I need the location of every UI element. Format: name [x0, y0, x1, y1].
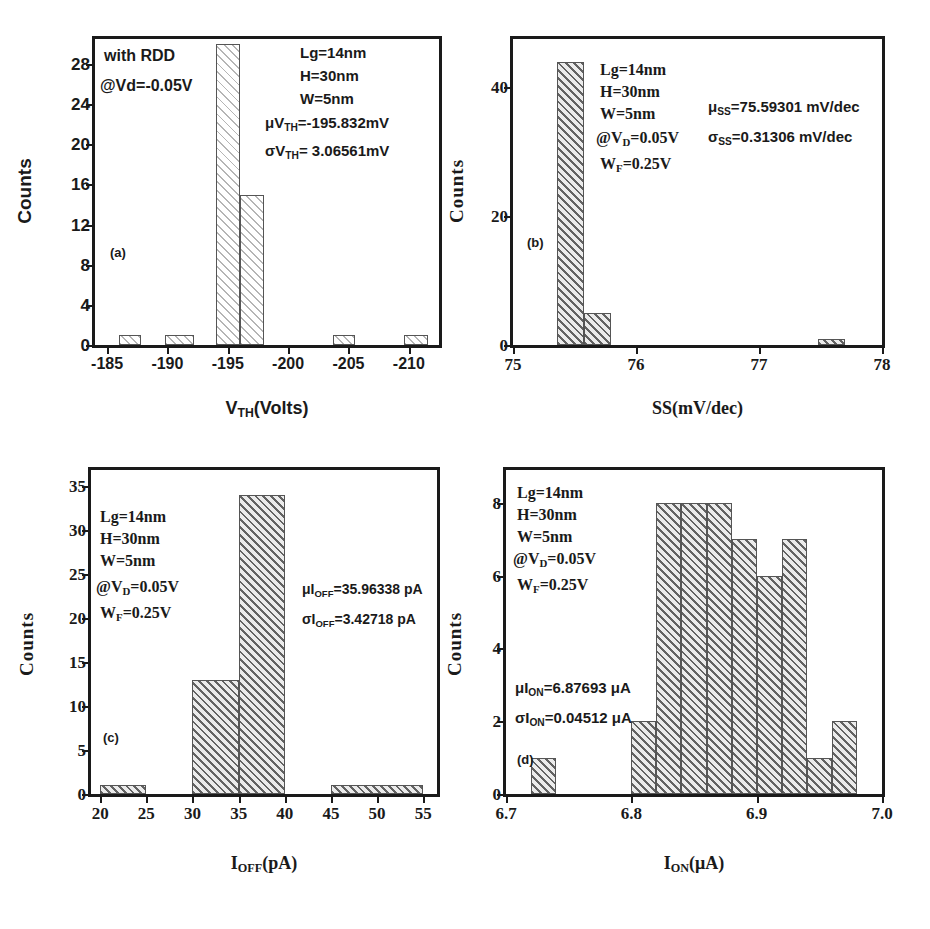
- panel-b-annotation-wf: WF=0.25V: [600, 152, 671, 177]
- panel-d-x-axis-title: ION(μA): [503, 853, 885, 876]
- y-axis-tick-label: 30: [69, 521, 86, 538]
- y-axis-tick-label: 16: [71, 176, 90, 193]
- mu-ion-sub: ON: [528, 687, 543, 698]
- y-axis-tick-label: 2: [493, 713, 502, 730]
- y-axis-tick-label: 4: [493, 640, 502, 657]
- histogram-bar: [832, 721, 857, 794]
- x-axis-tick-label: 35: [230, 805, 247, 822]
- x-axis-tick: [636, 345, 638, 354]
- panel-a-x-axis-title: VTH(Volts): [92, 398, 442, 420]
- panel-b-plot-area: [513, 39, 882, 345]
- x-axis-tick: [285, 794, 287, 803]
- histogram-bar: [100, 785, 146, 794]
- x-axis-tick-label: 20: [92, 805, 109, 822]
- x-axis-tick-label: 55: [415, 805, 432, 822]
- sigma-ion-sub: ON: [529, 717, 544, 728]
- y-axis-tick-label: 4: [81, 296, 90, 313]
- mu-ss-post: =75.59301 mV/dec: [731, 98, 860, 115]
- panel-c-annotation-vd: @VD=0.05V: [96, 575, 179, 600]
- panel-a-y-axis-title: Counts: [14, 158, 36, 223]
- panel-d-x-axis-title-post: (μA): [689, 853, 724, 873]
- sigma-vth-post: = 3.06561mV: [299, 142, 390, 159]
- histogram-bar: [333, 335, 355, 345]
- vd-pre: @V: [96, 578, 122, 595]
- histogram-bar: [707, 503, 732, 794]
- panel-c-annotation-mu-ioff: μIOFF=35.96338 pA: [302, 579, 423, 600]
- histogram-bar: [119, 335, 141, 345]
- y-axis-tick-label: 8: [493, 494, 502, 511]
- wf-sub: F: [533, 583, 540, 595]
- x-axis-tick-label: 45: [322, 805, 339, 822]
- panel-d-y-axis-title: Counts: [444, 612, 466, 676]
- sigma-ioff-pre: σI: [302, 611, 315, 627]
- sigma-vth-pre: σV: [265, 142, 285, 159]
- x-axis-tick: [631, 794, 633, 803]
- x-axis-tick-label: -190: [151, 356, 183, 372]
- panel-c-annotation-h: H=30nm: [100, 527, 160, 550]
- wf-sub: F: [616, 162, 623, 174]
- panel-b-annotation-lg: Lg=14nm: [600, 58, 666, 81]
- y-axis-tick-label: 5: [78, 741, 87, 758]
- x-axis-tick-label: 25: [138, 805, 155, 822]
- x-axis-tick-label: -185: [91, 356, 123, 372]
- panel-b: 02040 75767778 Counts SS(mV/dec) Lg=14nm…: [465, 0, 930, 455]
- y-axis-tick-label: 40: [491, 79, 508, 96]
- panel-b-annotation-sigma-ss: σSS=0.31306 mV/dec: [708, 126, 852, 150]
- y-axis-tick-label: 0: [81, 337, 90, 354]
- mu-ion-post: =6.87693 μA: [544, 679, 631, 696]
- x-axis-tick-label: 6.9: [746, 805, 767, 822]
- histogram-bar: [165, 335, 194, 345]
- panel-c: 05101520253035 2025303540455055 Counts I…: [0, 455, 465, 929]
- sigma-ion-pre: σI: [515, 709, 529, 726]
- mu-ioff-sub: OFF: [314, 588, 333, 599]
- panel-c-annotation-wf: WF=0.25V: [100, 601, 171, 626]
- panel-b-annotation-mu-ss: μSS=75.59301 mV/dec: [708, 96, 860, 120]
- panel-c-x-axis-title-main: I: [231, 853, 238, 873]
- panel-a-x-axis-title-post: (Volts): [254, 398, 309, 418]
- histogram-bar: [331, 785, 423, 794]
- y-axis-tick-label: 25: [69, 565, 86, 582]
- x-axis-tick: [882, 794, 884, 803]
- panel-d-annotation-sigma-ion: σION=0.04512 μA: [515, 707, 632, 731]
- x-axis-tick-label: -205: [332, 356, 364, 372]
- histogram-bar: [681, 503, 706, 794]
- wf-post: =0.25V: [540, 576, 589, 593]
- sigma-ion-post: =0.04512 μA: [545, 709, 632, 726]
- panel-c-x-axis-title: IOFF(pA): [88, 853, 440, 876]
- x-axis-tick-label: 50: [369, 805, 386, 822]
- wf-post: =0.25V: [623, 155, 672, 172]
- histogram-bar: [656, 503, 681, 794]
- y-axis-tick-label: 0: [78, 786, 87, 803]
- x-axis-tick: [348, 345, 350, 354]
- panel-a-annotation-bias: @Vd=-0.05V: [100, 74, 193, 97]
- histogram-bar: [239, 495, 285, 794]
- mu-ion-pre: μI: [515, 679, 528, 696]
- panel-b-annotation-vd: @VD=0.05V: [596, 126, 679, 151]
- panel-d-annotation-lg: Lg=14nm: [517, 481, 583, 504]
- wf-post: =0.25V: [123, 604, 172, 621]
- x-axis-tick: [107, 345, 109, 354]
- x-axis-tick: [167, 345, 169, 354]
- panel-b-plot-frame: 02040 75767778: [510, 36, 885, 348]
- x-axis-tick: [513, 345, 515, 354]
- panel-d-x-axis-title-sub: ON: [671, 861, 689, 875]
- x-axis-tick: [506, 794, 508, 803]
- sigma-ss-post: =0.31306 mV/dec: [732, 128, 853, 145]
- x-axis-tick: [759, 345, 761, 354]
- histogram-bar: [557, 62, 584, 345]
- x-axis-tick: [882, 345, 884, 354]
- panel-b-x-axis-title: SS(mV/dec): [510, 398, 885, 419]
- panel-d: 02468 6.76.86.97.0 Counts ION(μA) Lg=14n…: [465, 455, 930, 929]
- histogram-bar: [404, 335, 428, 345]
- x-axis-tick: [757, 794, 759, 803]
- mu-vth-pre: μV: [265, 114, 284, 131]
- x-axis-tick: [423, 794, 425, 803]
- mu-vth-sub: TH: [284, 122, 298, 133]
- x-axis-tick-label: 77: [751, 356, 768, 373]
- panel-d-annotation-w: W=5nm: [517, 525, 572, 548]
- sigma-ioff-sub: OFF: [315, 618, 334, 629]
- histogram-bar: [240, 195, 264, 345]
- y-axis-tick-label: 20: [491, 208, 508, 225]
- sigma-ss-pre: σ: [708, 128, 718, 145]
- x-axis-tick-label: 6.7: [495, 805, 516, 822]
